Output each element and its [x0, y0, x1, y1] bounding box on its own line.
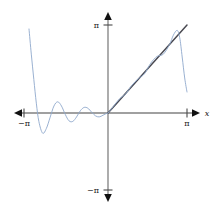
x-axis-neg-pi-label: −π — [18, 119, 30, 128]
y-axis-neg-pi-label: −π — [87, 186, 99, 195]
x-axis-pi-label: π — [184, 119, 189, 128]
x-axis-left-arrowhead — [14, 109, 22, 117]
y-axis-top-arrowhead — [104, 12, 112, 20]
plot-svg: −π π π −π x — [0, 0, 216, 212]
x-axis-name-label: x — [205, 109, 210, 118]
fourier-series-plot: −π π π −π x — [0, 0, 216, 212]
y-axis-bottom-arrowhead — [104, 194, 112, 202]
x-axis-right-arrowhead — [192, 109, 200, 117]
y-axis-pi-label: π — [94, 21, 99, 30]
